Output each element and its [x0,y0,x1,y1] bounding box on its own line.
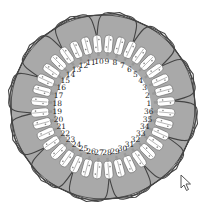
slot-label: 6 [127,65,132,74]
slot-label: 7 [120,61,125,70]
stator-winding-diagram: 1234567891011121314151617181920212223242… [0,0,206,216]
slot-label: 4 [138,76,143,85]
stator-ring [11,15,195,199]
slot-label: 9 [105,57,110,66]
mouse-pointer-icon [180,174,192,192]
slot-label: 35 [143,115,153,124]
slot-label: 8 [113,58,118,67]
slot-label: 5 [133,70,138,79]
slot-label: 36 [144,107,154,116]
